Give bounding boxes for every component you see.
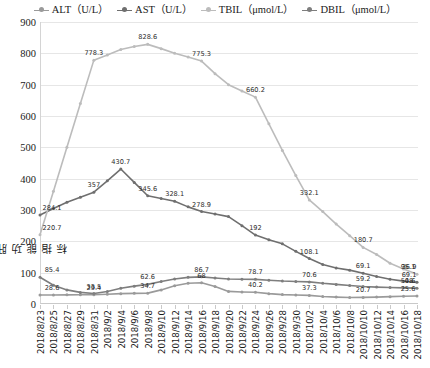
y-axis-tick-label: 0	[2, 299, 36, 310]
data-label: 775.3	[192, 50, 211, 58]
x-axis-tick-label: 2018/10/8	[346, 310, 356, 354]
data-label: 220.7	[43, 224, 62, 232]
data-label: 180.7	[354, 236, 373, 244]
x-axis-tickmark	[175, 305, 176, 309]
y-axis-tick-label: 200	[2, 236, 36, 247]
x-axis-tickmark	[67, 305, 68, 309]
legend-label: AST（U/L）	[135, 5, 192, 16]
data-label: 660.2	[246, 86, 265, 94]
y-axis-tick-label: 900	[2, 17, 36, 28]
legend-item-2[interactable]: TBIL（μmol/L）	[201, 5, 294, 16]
x-axis-tick-label: 2018/9/18	[211, 310, 221, 354]
x-axis-tickmark	[121, 305, 122, 309]
x-axis-tickmark	[80, 305, 81, 309]
x-axis-tickmark	[40, 305, 41, 309]
x-axis-tickmark	[296, 305, 297, 309]
data-label: 828.6	[138, 33, 157, 41]
data-label: 70.6	[302, 271, 317, 279]
x-axis-tickmark	[363, 305, 364, 309]
x-axis-tick-label: 2018/9/8	[144, 310, 154, 349]
legend-item-0[interactable]: ALT（U/L）	[34, 5, 108, 16]
legend-swatch-icon	[302, 6, 317, 15]
x-axis-tickmark	[229, 305, 230, 309]
x-axis-tick-label: 2018/10/16	[400, 310, 410, 360]
legend-item-3[interactable]: DBIL（μmol/L）	[302, 5, 396, 16]
x-axis-tickmark	[269, 305, 270, 309]
x-axis-tickmark	[202, 305, 203, 309]
y-axis-tick-label: 400	[2, 173, 36, 184]
x-axis-tickmark	[377, 305, 378, 309]
data-label: 34.7	[140, 282, 155, 290]
x-axis-ticks: 2018/8/232018/8/252018/8/272018/8/292018…	[40, 305, 418, 367]
x-axis-tickmark	[148, 305, 149, 309]
x-axis-tick-label: 2018/9/6	[130, 310, 140, 349]
x-axis-tick-label: 2018/9/20	[225, 310, 235, 354]
data-label: 284.1	[43, 204, 62, 212]
data-label: 192	[249, 224, 262, 232]
data-label: 69.1	[356, 262, 371, 270]
liver-function-line-chart: ALT（U/L）AST（U/L）TBIL（μmol/L）DBIL（μmol/L）…	[0, 0, 430, 368]
x-axis-tick-label: 2018/9/2	[103, 310, 113, 349]
y-axis-tick-label: 100	[2, 267, 36, 278]
data-label: 345.6	[138, 185, 157, 193]
x-axis-tickmark	[94, 305, 95, 309]
x-axis-tickmark	[242, 305, 243, 309]
legend-item-1[interactable]: AST（U/L）	[117, 5, 192, 16]
x-axis-tick-label: 2018/9/12	[171, 310, 181, 354]
x-axis-tickmark	[161, 305, 162, 309]
data-label: 36.9	[402, 263, 417, 271]
legend-label: DBIL（μmol/L）	[320, 5, 396, 16]
x-axis-tickmark	[417, 305, 418, 309]
x-axis-tick-label: 2018/8/23	[36, 310, 46, 354]
x-axis-tickmark	[404, 305, 405, 309]
y-axis-tick-label: 500	[2, 142, 36, 153]
y-axis-ticks: 0100200300400500600700800900	[0, 22, 36, 304]
x-axis-tickmark	[215, 305, 216, 309]
x-axis-tick-label: 2018/8/25	[49, 310, 59, 354]
data-label: 430.7	[111, 158, 130, 166]
x-axis-tick-label: 2018/10/2	[305, 310, 315, 354]
x-axis-tick-label: 2018/9/14	[184, 310, 194, 354]
y-axis-tick-label: 700	[2, 79, 36, 90]
legend-swatch-icon	[34, 6, 49, 15]
x-axis-tick-label: 2018/9/28	[278, 310, 288, 354]
data-label: 20.7	[356, 286, 371, 294]
x-axis-tick-label: 2018/10/4	[319, 310, 329, 354]
x-axis-tickmark	[134, 305, 135, 309]
x-axis-tick-label: 2018/9/4	[117, 310, 127, 349]
data-label: 59.2	[356, 275, 371, 283]
x-axis-tick-label: 2018/8/27	[63, 310, 73, 354]
data-label: 86.7	[194, 266, 209, 274]
y-axis-tick-label: 800	[2, 48, 36, 59]
x-axis-tick-label: 2018/10/12	[373, 310, 383, 360]
x-axis-tick-label: 2018/10/18	[413, 310, 423, 360]
data-label: 328.1	[165, 190, 184, 198]
x-axis-tick-label: 2018/9/16	[198, 310, 208, 354]
chart-legend: ALT（U/L）AST（U/L）TBIL（μmol/L）DBIL（μmol/L）	[0, 2, 430, 18]
y-axis-tick-label: 600	[2, 111, 36, 122]
x-axis-tickmark	[336, 305, 337, 309]
data-label: 62.6	[140, 273, 155, 281]
x-axis-tick-label: 2018/8/29	[76, 310, 86, 354]
x-axis-tick-label: 2018/10/14	[386, 310, 396, 360]
data-label: 48	[405, 277, 413, 285]
data-label: 40.2	[248, 281, 263, 289]
data-label: 778.3	[84, 49, 103, 57]
data-label: 278.9	[192, 201, 211, 209]
x-axis-tickmark	[107, 305, 108, 309]
x-axis-tick-label: 2018/8/31	[90, 310, 100, 354]
y-axis-tick-label: 300	[2, 205, 36, 216]
data-label: 28.6	[45, 284, 60, 292]
legend-label: TBIL（μmol/L）	[219, 5, 294, 16]
legend-swatch-icon	[201, 6, 216, 15]
x-axis-tickmark	[323, 305, 324, 309]
x-axis-tick-label: 2018/9/22	[238, 310, 248, 354]
data-label: 25.6	[401, 285, 416, 293]
data-label: 78.7	[248, 268, 263, 276]
x-axis-tickmark	[309, 305, 310, 309]
x-axis-tick-label: 2018/9/10	[157, 310, 167, 354]
x-axis-tick-label: 2018/10/6	[332, 310, 342, 354]
x-axis-tickmark	[188, 305, 189, 309]
data-label: 37.3	[302, 284, 317, 292]
data-label: 85.4	[45, 266, 60, 274]
